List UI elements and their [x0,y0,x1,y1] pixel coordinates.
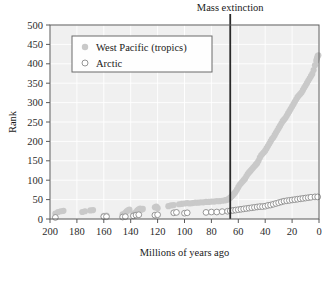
x-tick-label: 120 [150,226,166,237]
data-point-west-pacific [155,205,161,211]
x-tick-label: 60 [233,226,244,237]
chart-figure: Mass extinction0501001502002503003504004… [0,0,332,283]
x-axis-title: Millions of years ago [140,247,230,258]
y-tick-label: 500 [27,20,43,31]
y-tick-label: 50 [33,194,44,205]
data-point-arctic [219,209,225,215]
legend-label: Arctic [96,58,123,69]
x-tick-label: 40 [260,226,271,237]
data-point-west-pacific [90,207,96,213]
data-point-arctic [315,194,321,200]
data-point-west-pacific [60,208,66,214]
data-point-arctic [174,210,180,216]
legend: West Pacific (tropics)Arctic [72,36,212,72]
x-tick-label: 0 [316,226,321,237]
data-point-arctic [136,212,142,218]
data-point-west-pacific [140,206,146,212]
y-tick-label: 200 [27,136,43,147]
x-tick-label: 200 [42,226,58,237]
x-tick-label: 180 [69,226,85,237]
legend-marker-filled-circle-icon [82,44,88,50]
legend-marker-open-circle-icon [82,60,88,66]
data-point-arctic [203,210,209,216]
data-point-west-pacific [82,208,88,214]
y-tick-label: 0 [38,214,43,225]
data-point-arctic [184,210,190,216]
x-tick-label: 140 [123,226,139,237]
x-tick-label: 100 [177,226,193,237]
mass-extinction-label: Mass extinction [197,2,265,13]
legend-entry: West Pacific (tropics) [82,42,187,54]
data-point-west-pacific [171,202,177,208]
rank-vs-time-scatter-chart: Mass extinction0501001502002503003504004… [0,0,332,283]
y-tick-label: 450 [27,39,43,50]
x-tick-label: 80 [206,226,217,237]
x-tick-label: 20 [287,226,298,237]
data-point-west-pacific [315,52,321,58]
y-tick-label: 100 [27,175,43,186]
x-axis: 200180160140120100806040200 [42,219,322,237]
y-axis-title: Rank [7,110,18,133]
data-point-arctic [155,212,161,218]
y-tick-label: 150 [27,155,43,166]
data-point-arctic [214,209,220,215]
y-tick-label: 250 [27,117,43,128]
y-tick-label: 350 [27,78,43,89]
legend-label: West Pacific (tropics) [96,42,187,54]
y-axis: 050100150200250300350400450500 [27,20,50,225]
x-tick-label: 160 [96,226,112,237]
y-tick-label: 400 [27,58,43,69]
y-tick-label: 300 [27,97,43,108]
